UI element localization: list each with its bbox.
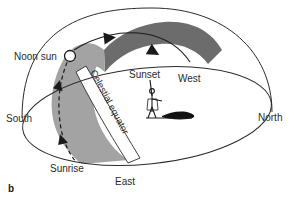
label-east: East xyxy=(115,176,135,187)
celestial-sphere-diagram: Noon sun Sunset West South North Sunrise… xyxy=(0,0,297,199)
figure-panel-b: Noon sun Sunset West South North Sunrise… xyxy=(0,0,297,199)
label-sunset: Sunset xyxy=(129,69,160,80)
panel-letter: b xyxy=(8,183,14,194)
label-sunrise: Sunrise xyxy=(50,163,84,174)
noon-sun-marker-icon xyxy=(65,51,76,62)
label-south: South xyxy=(6,113,32,124)
label-north: North xyxy=(258,112,282,123)
label-noon-sun: Noon sun xyxy=(14,51,57,62)
label-west: West xyxy=(178,73,201,84)
